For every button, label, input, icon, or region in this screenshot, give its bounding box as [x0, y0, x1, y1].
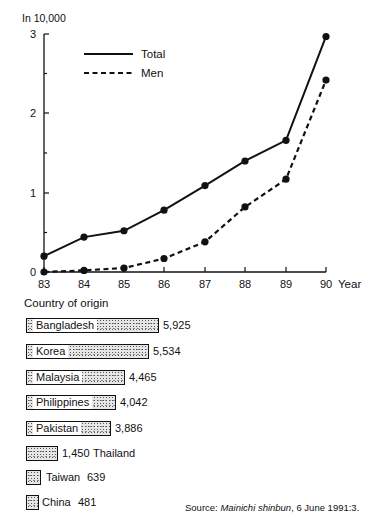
legend-men-label: Men: [141, 67, 163, 79]
x-tick-labels: 83 84 85 86 87 88 89 90 Year: [38, 278, 362, 290]
bar-korea: Korea: [26, 344, 149, 359]
series-total-markers: [40, 33, 329, 260]
bar-value-label: 1,450: [62, 446, 90, 461]
bar-country-label: China: [42, 495, 71, 510]
bar-country-label: Thailand: [93, 446, 135, 461]
data-point-marker: [120, 227, 127, 234]
data-point-marker: [322, 76, 329, 83]
y-ticks: [44, 34, 49, 272]
data-point-marker: [80, 267, 87, 274]
y-tick-label: 1: [30, 187, 36, 199]
bar-value-label: 5,925: [163, 318, 191, 333]
y-tick-label: 0: [30, 266, 36, 278]
series-men-line: [44, 80, 326, 272]
bar-bangladesh: Bangladesh: [26, 318, 159, 333]
data-point-marker: [40, 268, 47, 275]
data-point-marker: [282, 176, 289, 183]
data-point-marker: [80, 234, 87, 241]
x-tick-label: 90: [320, 278, 332, 290]
data-point-marker: [120, 264, 127, 271]
bar-value-label: 639: [87, 470, 105, 485]
bar-thailand: [26, 446, 58, 461]
data-point-marker: [40, 253, 47, 260]
y-tick-label: 2: [30, 107, 36, 119]
bar-pakistan: Pakistan: [26, 421, 111, 436]
source-suffix: , 6 June 1991:3.: [291, 502, 359, 513]
y-tick-labels: 3 2 1 0: [30, 28, 36, 278]
bar-country-label: Bangladesh: [33, 319, 97, 332]
legend-total-label: Total: [141, 48, 165, 60]
legend: Total Men: [84, 48, 165, 79]
bar-china: [26, 495, 39, 510]
bar-value-label: 3,886: [115, 421, 143, 436]
bar-country-label: Pakistan: [33, 422, 81, 435]
y-tick-label: 3: [30, 28, 36, 40]
bar-country-label: Philippines: [33, 396, 92, 409]
bar-chart-title: Country of origin: [24, 296, 108, 311]
source-note: Source: Mainichi shinbun, 6 June 1991:3.: [185, 502, 359, 513]
data-point-marker: [160, 255, 167, 262]
x-tick-label: 87: [199, 278, 211, 290]
bar-country-label: Taiwan: [46, 470, 80, 485]
bar-value-label: 5,534: [153, 344, 181, 359]
bar-philippines: Philippines: [26, 395, 116, 410]
bar-country-label: Malaysia: [33, 371, 82, 384]
data-point-marker: [322, 33, 329, 40]
data-point-marker: [241, 203, 248, 210]
data-point-marker: [241, 157, 248, 164]
x-tick-label: 85: [118, 278, 130, 290]
bar-value-label: 4,042: [120, 395, 148, 410]
series-men-markers: [40, 76, 329, 275]
x-tick-label: 88: [239, 278, 251, 290]
x-tick-label: 89: [280, 278, 292, 290]
x-tick-label: 86: [158, 278, 170, 290]
y-axis-unit-label: In 10,000: [22, 12, 66, 24]
data-point-marker: [201, 182, 208, 189]
series-total-line: [44, 36, 326, 256]
source-publication: Mainichi shinbun: [220, 502, 291, 513]
bar-value-label: 4,465: [129, 370, 157, 385]
x-tick-label: 83: [38, 278, 50, 290]
source-prefix: Source:: [185, 502, 220, 513]
data-point-marker: [160, 207, 167, 214]
bar-country-label: Korea: [33, 345, 68, 358]
x-axis-label: Year: [338, 278, 361, 290]
bar-taiwan: [26, 470, 41, 485]
bar-value-label: 481: [78, 495, 96, 510]
bar-malaysia: Malaysia: [26, 370, 125, 385]
line-chart: In 10,000 3 2 1 0 83 84 85 86 87 88 89: [0, 0, 383, 300]
data-point-marker: [201, 238, 208, 245]
data-point-marker: [282, 137, 289, 144]
x-tick-label: 84: [78, 278, 90, 290]
